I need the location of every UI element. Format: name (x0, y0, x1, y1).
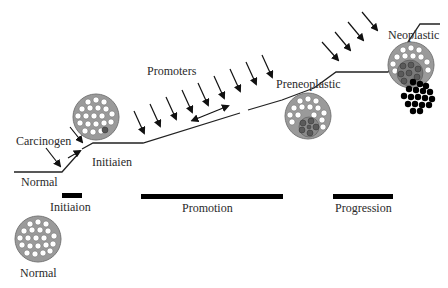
reversible-arrow (196, 106, 228, 119)
label-initiated: Initiaien (92, 155, 132, 170)
legend-normal-cell-label: Normal (20, 266, 57, 281)
label-normal: Normal (21, 175, 58, 190)
label-promoters: Promoters (147, 64, 196, 79)
preneoplastic-cell-icon (285, 93, 331, 139)
stage-bar-progression (333, 194, 393, 199)
stage-bar-promotion (141, 194, 283, 199)
label-preneoplastic: Preneoplastic (276, 77, 341, 92)
stage-label-promotion: Promotion (182, 201, 233, 216)
progression-arrows (322, 12, 377, 60)
stage-bar-initiation (62, 193, 82, 198)
label-neoplastic: Neoplastic (388, 28, 439, 43)
label-carcinogen: Carcinogen (16, 134, 71, 149)
initiated-cell-icon (73, 94, 119, 140)
stage-label-progression: Progression (335, 201, 392, 216)
normal-cell-icon (15, 216, 61, 262)
progression-path (14, 24, 440, 172)
stage-label-initiation: Initiaion (50, 200, 91, 215)
neoplastic-cell-icon (388, 42, 435, 114)
